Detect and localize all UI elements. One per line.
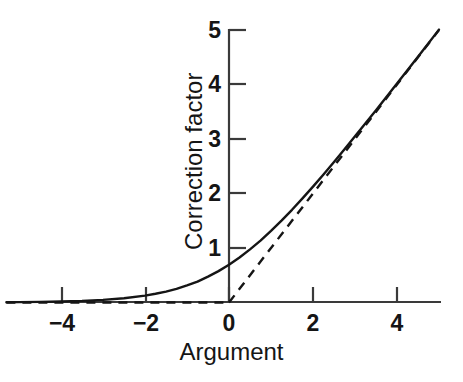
x-tick-label-0: 0: [223, 312, 236, 335]
x-tick-label--4: −4: [49, 312, 75, 335]
x-tick-label-4: 4: [391, 312, 404, 335]
series-group: [6, 30, 439, 303]
x-tick-label-2: 2: [307, 312, 320, 335]
y-tick-label-5: 5: [196, 19, 221, 42]
series-correction-factor-curve: [6, 30, 439, 303]
y-axis-title: Correction factor: [182, 73, 206, 250]
chart-figure: −4 −2 0 2 4 1 2 3 4 5 Argument Correctio…: [0, 0, 463, 382]
y-ticks-group: [229, 30, 246, 248]
x-tick-label--2: −2: [133, 312, 159, 335]
x-axis-title: Argument: [0, 340, 463, 364]
